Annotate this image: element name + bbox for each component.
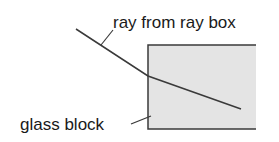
ray-label-leader — [101, 30, 113, 45]
block-label: glass block — [20, 115, 105, 134]
refraction-diagram: ray from ray box glass block — [0, 0, 279, 142]
ray-label: ray from ray box — [113, 13, 236, 32]
glass-block — [148, 45, 256, 129]
